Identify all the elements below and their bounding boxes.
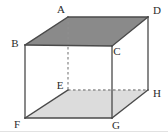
vertex-label-b: B (11, 38, 18, 49)
vertex-label-f: F (14, 119, 20, 130)
vertex-label-c: C (113, 46, 120, 57)
baseline-divider (0, 131, 168, 132)
cuboid-figure: ABCDEFGH (0, 0, 168, 136)
vertex-label-g: G (112, 120, 120, 131)
vertex-label-d: D (153, 5, 161, 16)
vertex-label-a: A (57, 4, 65, 15)
vertex-label-h: H (153, 88, 161, 99)
cuboid-drawing (0, 0, 168, 136)
vertex-label-e: E (57, 80, 64, 91)
